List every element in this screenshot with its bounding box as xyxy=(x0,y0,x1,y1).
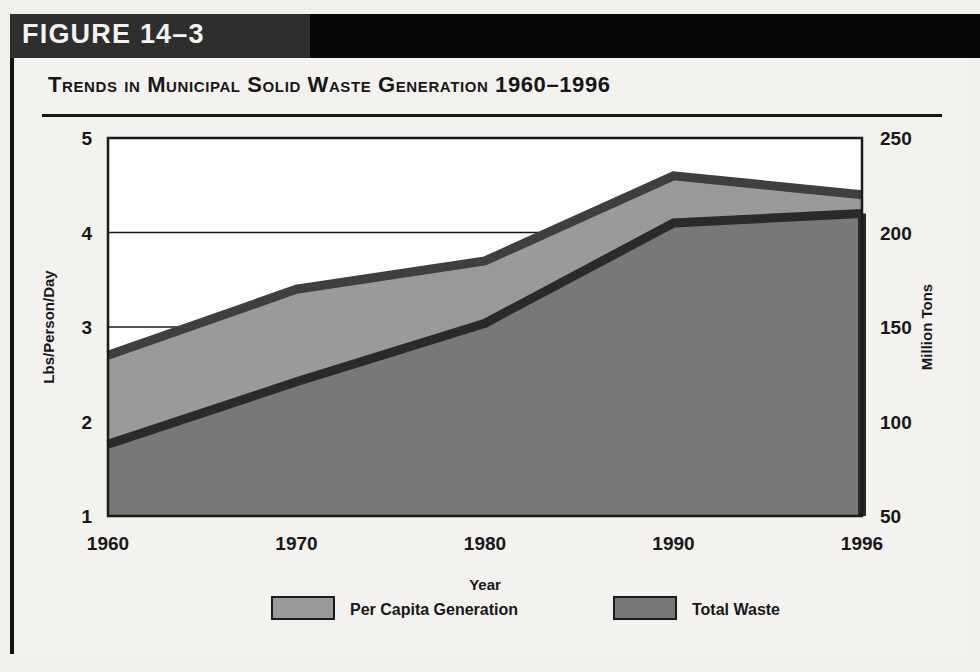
title-divider xyxy=(42,114,942,117)
x-axis-title: Year xyxy=(469,576,501,593)
left-axis-tick-label: 3 xyxy=(81,317,92,338)
chart-plot-area: 12345 50100150200250 1960197019801990199… xyxy=(14,120,974,654)
right-axis-tick-label: 250 xyxy=(880,128,912,149)
x-axis-tick-label: 1990 xyxy=(652,533,694,554)
right-axis-ticks: 50100150200250 xyxy=(880,128,912,527)
left-axis-ticks: 12345 xyxy=(81,128,92,527)
left-axis-tick-label: 2 xyxy=(81,412,92,433)
x-axis-tick-label: 1970 xyxy=(275,533,317,554)
x-axis-ticks: 19601970198019901996 xyxy=(87,533,883,554)
right-axis-title: Million Tons xyxy=(918,284,935,370)
x-axis-tick-label: 1996 xyxy=(841,533,883,554)
chart-legend: Per Capita GenerationTotal Waste xyxy=(272,597,780,619)
left-axis-tick-label: 5 xyxy=(81,128,92,149)
figure-page: FIGURE 14–3 Trends in Municipal Solid Wa… xyxy=(0,0,980,672)
left-axis-tick-label: 4 xyxy=(81,223,92,244)
figure-card: Trends in Municipal Solid Waste Generati… xyxy=(10,58,970,654)
figure-banner: FIGURE 14–3 xyxy=(0,14,980,58)
legend-label: Per Capita Generation xyxy=(350,601,518,618)
right-axis-tick-label: 200 xyxy=(880,223,912,244)
legend-label: Total Waste xyxy=(692,601,780,618)
x-axis-tick-label: 1960 xyxy=(87,533,129,554)
legend-swatch xyxy=(272,597,334,619)
area-chart-svg: 12345 50100150200250 1960197019801990199… xyxy=(14,120,974,654)
right-axis-tick-label: 150 xyxy=(880,317,912,338)
right-axis-tick-label: 50 xyxy=(880,506,901,527)
x-axis-tick-label: 1980 xyxy=(464,533,506,554)
left-axis-title: Lbs/Person/Day xyxy=(40,270,57,384)
legend-swatch xyxy=(614,597,676,619)
left-axis-tick-label: 1 xyxy=(81,506,92,527)
figure-banner-right-bar xyxy=(310,14,980,58)
right-axis-tick-label: 100 xyxy=(880,412,912,433)
chart-title: Trends in Municipal Solid Waste Generati… xyxy=(48,72,611,98)
figure-number-label: FIGURE 14–3 xyxy=(22,19,205,50)
